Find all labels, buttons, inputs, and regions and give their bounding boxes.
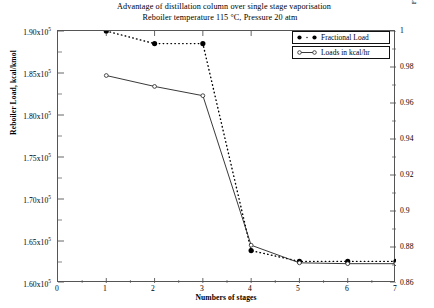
series-1	[104, 31, 396, 264]
xtick-5: 5	[288, 284, 308, 293]
data-point	[201, 94, 205, 98]
y-axis-left-title: Reboiler Load, kcal/kmol	[9, 23, 18, 163]
ytick-right-2: 0.9	[400, 206, 410, 215]
data-point	[249, 243, 253, 247]
x-axis-title: Numbers of stages	[57, 293, 395, 302]
series-2	[104, 74, 396, 266]
legend-item-loads-kcal-hr[interactable]: Loads in kcal/hr	[292, 46, 390, 59]
ytick-left-1: 1.65x105	[0, 236, 51, 247]
data-point	[249, 248, 254, 253]
y-axis-right-title: Fraction of load as single stage distill…	[410, 0, 418, 50]
legend-marker-filled-circle-icon	[296, 33, 318, 42]
ytick-left-0: 1.60x105	[0, 278, 51, 289]
data-point	[200, 41, 205, 46]
data-point	[298, 261, 302, 265]
xtick-4: 4	[240, 284, 260, 293]
plot-canvas	[58, 31, 396, 283]
legend-marker-open-circle-icon	[296, 48, 318, 57]
data-point	[394, 262, 396, 266]
chart-figure: Advantage of distillation column over si…	[0, 0, 434, 308]
ytick-right-6: 0.98	[400, 62, 414, 71]
chart-legend: Fractional Load Loads in kcal/hr	[292, 31, 390, 61]
data-point	[153, 85, 157, 89]
xtick-7: 7	[385, 284, 405, 293]
ytick-right-5: 0.96	[400, 98, 414, 107]
xtick-3: 3	[192, 284, 212, 293]
plot-area	[57, 30, 395, 282]
ytick-right-1: 0.88	[400, 242, 414, 251]
ytick-right-3: 0.92	[400, 170, 414, 179]
series-line	[106, 31, 396, 261]
series-line	[106, 76, 396, 264]
legend-item-fractional-load[interactable]: Fractional Load	[292, 31, 390, 44]
data-point	[346, 262, 350, 266]
ytick-left-2: 1.70x105	[0, 194, 51, 205]
ytick-right-7: 1	[400, 26, 404, 35]
legend-label-fractional-load: Fractional Load	[321, 33, 369, 42]
chart-title-line-1: Advantage of distillation column over si…	[0, 2, 434, 13]
legend-label-loads-kcal-hr: Loads in kcal/hr	[321, 48, 370, 57]
xtick-2: 2	[143, 284, 163, 293]
xtick-0: 0	[47, 284, 67, 293]
chart-title: Advantage of distillation column over si…	[0, 2, 434, 23]
xtick-6: 6	[337, 284, 357, 293]
data-point	[152, 41, 157, 46]
data-point	[104, 31, 109, 34]
ytick-right-4: 0.94	[400, 134, 414, 143]
chart-title-line-2: Reboiler temperature 115 °C, Pressure 20…	[0, 13, 434, 24]
xtick-1: 1	[95, 284, 115, 293]
data-point	[104, 74, 108, 78]
